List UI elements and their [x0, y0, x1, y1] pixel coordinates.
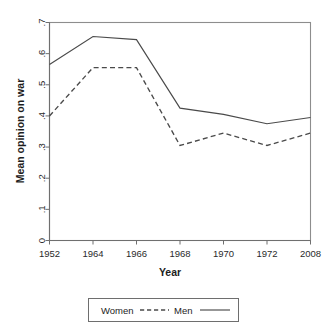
- y-tick-labels: 0.1.2.3.4.5.6.7: [36, 19, 47, 244]
- y-tick-label: .3: [36, 143, 47, 151]
- x-axis-title: Year: [159, 266, 181, 278]
- series-line-men: [50, 37, 311, 124]
- y-tick-label: .4: [36, 112, 47, 120]
- chart-figure: 0.1.2.3.4.5.6.7 Mean opinion on war 1952…: [0, 0, 336, 331]
- x-tick-label: 2008: [300, 248, 321, 259]
- line-chart: 0.1.2.3.4.5.6.7 Mean opinion on war 1952…: [0, 0, 336, 331]
- x-tick-label: 1952: [39, 248, 60, 259]
- x-tick-label: 1966: [126, 248, 147, 259]
- chart-legend: Women Men: [89, 299, 239, 322]
- y-tick-label: .1: [36, 205, 47, 213]
- x-tick-marks: [50, 241, 311, 245]
- y-axis: 0.1.2.3.4.5.6.7 Mean opinion on war: [14, 19, 50, 244]
- y-axis-title: Mean opinion on war: [14, 79, 26, 183]
- x-axis: 1952196419661968197019722008 Year: [39, 241, 321, 279]
- x-tick-label: 1968: [169, 248, 190, 259]
- y-tick-label: .5: [36, 81, 47, 89]
- y-tick-label: .6: [36, 50, 47, 58]
- x-tick-label: 1964: [82, 248, 103, 259]
- x-tick-label: 1970: [213, 248, 234, 259]
- series-line-women: [50, 68, 311, 146]
- x-tick-labels: 1952196419661968197019722008: [39, 248, 321, 259]
- legend-label-men: Men: [174, 305, 192, 316]
- legend-label-women: Women: [101, 305, 134, 316]
- y-tick-label: .2: [36, 174, 47, 182]
- y-tick-label: 0: [36, 238, 47, 243]
- x-tick-label: 1972: [256, 248, 277, 259]
- y-tick-label: .7: [36, 19, 47, 27]
- plot-frame: [50, 23, 311, 241]
